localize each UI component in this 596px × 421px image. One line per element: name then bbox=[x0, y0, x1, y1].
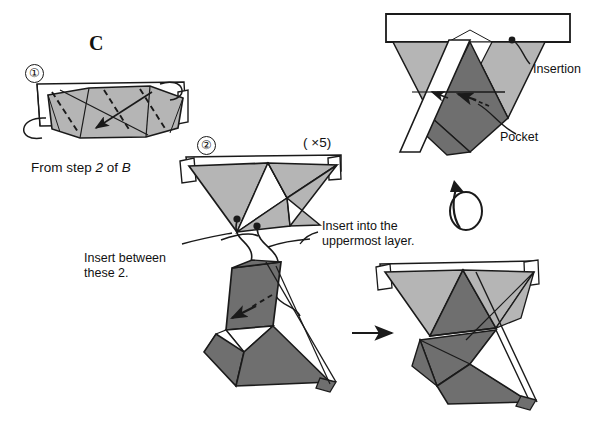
insert-uppermost-leader-line bbox=[300, 232, 318, 244]
from-step-unit: B bbox=[122, 160, 131, 175]
pocket-label: Pocket bbox=[500, 130, 538, 145]
rotate-loop-arrow bbox=[450, 180, 482, 230]
insertion-label: Insertion bbox=[533, 62, 581, 77]
figure-joining bbox=[204, 260, 336, 392]
figure-detail bbox=[386, 14, 570, 155]
from-step-number: 2 bbox=[96, 160, 104, 175]
step-1-number: ① bbox=[25, 64, 44, 83]
diagram-artwork bbox=[0, 0, 596, 421]
from-step-prefix: From step bbox=[31, 160, 96, 175]
from-step-caption: From step 2 of B bbox=[31, 160, 131, 176]
step-2-number: ② bbox=[197, 136, 216, 155]
insertion-point-dot bbox=[509, 37, 516, 44]
figure-result bbox=[376, 260, 539, 410]
insert-uppermost-label: Insert into theuppermost layer. bbox=[322, 219, 414, 249]
insert-between-line-1: Insert between bbox=[84, 251, 166, 265]
insert-uppermost-line-1: Insert into the bbox=[322, 219, 398, 233]
origami-diagram-page: C ① From step 2 of B ② ( ×5) Insert betw… bbox=[0, 0, 596, 421]
insert-uppermost-line-2: uppermost layer. bbox=[322, 234, 414, 248]
insert-between-label: Insert betweenthese 2. bbox=[84, 251, 166, 281]
from-step-mid: of bbox=[103, 160, 122, 175]
figure-step1 bbox=[24, 82, 188, 138]
section-letter-c: C bbox=[89, 32, 103, 56]
insert-between-line-2: these 2. bbox=[84, 266, 128, 280]
repeat-count-label: ( ×5) bbox=[303, 135, 331, 151]
figure-step2 bbox=[180, 155, 341, 232]
